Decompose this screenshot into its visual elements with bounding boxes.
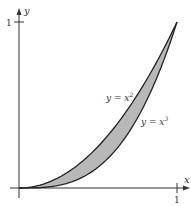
y-axis-arrow-icon	[17, 8, 22, 15]
label-x-squared: y = x2	[105, 91, 133, 103]
x-axis-label: x	[184, 174, 190, 185]
x-tick-label: 1	[174, 195, 180, 205]
label-x-cubed: y = x3	[140, 115, 168, 127]
x-axis-arrow-icon	[183, 186, 190, 191]
area-between-curves-chart: x y 1 1 y = x2 y = x3	[0, 0, 191, 206]
y-axis-label: y	[23, 5, 30, 16]
y-tick-label: 1	[6, 18, 12, 28]
shaded-region	[19, 22, 177, 188]
